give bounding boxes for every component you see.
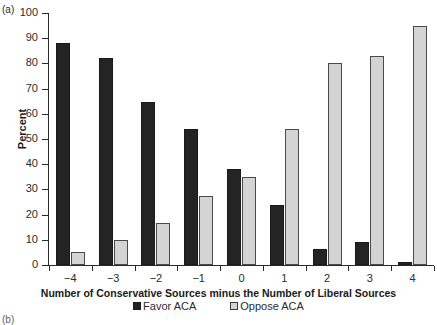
legend-swatch-oppose-icon	[230, 302, 238, 310]
y-tick	[42, 38, 48, 39]
y-tick	[42, 13, 48, 14]
x-tick-label: −1	[179, 272, 219, 284]
x-tick	[391, 266, 392, 271]
x-tick	[220, 266, 221, 271]
legend-item: Favor ACA	[133, 300, 196, 312]
y-tick-label: 20	[12, 209, 38, 220]
y-tick	[42, 63, 48, 64]
bar-oppose	[71, 252, 85, 265]
x-tick	[263, 266, 264, 271]
y-tick-label: 30	[12, 183, 38, 194]
chart-legend: Favor ACAOppose ACA	[0, 300, 437, 312]
x-tick	[177, 266, 178, 271]
y-tick-label: 10	[12, 234, 38, 245]
y-tick	[42, 265, 48, 266]
x-tick	[135, 266, 136, 271]
x-tick-label: −2	[136, 272, 176, 284]
bar-favor	[270, 205, 284, 265]
y-tick-label: 90	[12, 32, 38, 43]
legend-swatch-favor-icon	[133, 302, 141, 310]
y-axis-title: Percent	[16, 89, 28, 169]
bar-favor	[227, 169, 241, 265]
y-tick-label: 100	[12, 7, 38, 18]
x-tick-label: −3	[93, 272, 133, 284]
x-tick	[49, 266, 50, 271]
bar-oppose	[114, 240, 128, 265]
y-tick	[42, 114, 48, 115]
x-axis-line	[48, 265, 434, 266]
y-tick	[42, 139, 48, 140]
x-tick-label: 3	[350, 272, 390, 284]
bar-favor	[355, 242, 369, 265]
x-tick-label: 1	[264, 272, 304, 284]
bar-oppose	[199, 196, 213, 265]
x-tick	[306, 266, 307, 271]
x-tick	[92, 266, 93, 271]
bar-oppose	[285, 129, 299, 265]
y-tick-label: 0	[12, 259, 38, 270]
bar-favor	[313, 249, 327, 265]
x-tick-label: 4	[393, 272, 433, 284]
bar-favor	[99, 58, 113, 265]
legend-label: Oppose ACA	[240, 300, 304, 312]
bars-layer	[49, 13, 434, 265]
y-tick	[42, 215, 48, 216]
y-tick	[42, 189, 48, 190]
y-tick-label: 80	[12, 57, 38, 68]
bar-oppose	[370, 56, 384, 265]
legend-item: Oppose ACA	[230, 300, 304, 312]
bar-favor	[398, 262, 412, 265]
bar-oppose	[413, 26, 427, 265]
panel-label-b: (b)	[2, 314, 14, 325]
bar-oppose	[328, 63, 342, 265]
x-axis-title: Number of Conservative Sources minus the…	[0, 287, 437, 299]
x-tick-label: 2	[307, 272, 347, 284]
bar-favor	[184, 129, 198, 265]
x-tick-label: −4	[50, 272, 90, 284]
bar-favor	[141, 102, 155, 265]
y-tick	[42, 240, 48, 241]
y-tick	[42, 164, 48, 165]
x-tick	[348, 266, 349, 271]
bar-oppose	[156, 223, 170, 265]
bar-favor	[56, 43, 70, 265]
x-tick-label: 0	[222, 272, 262, 284]
x-tick	[434, 266, 435, 271]
y-tick	[42, 89, 48, 90]
bar-oppose	[242, 177, 256, 265]
legend-label: Favor ACA	[143, 300, 196, 312]
